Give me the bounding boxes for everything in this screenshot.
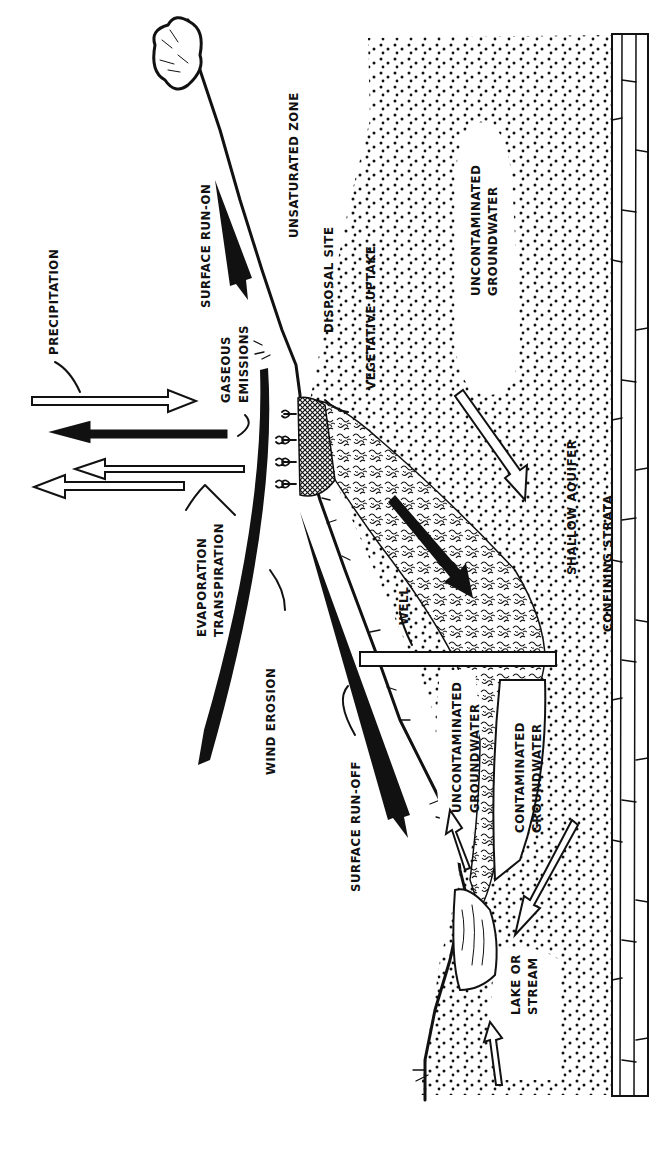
wind-erosion-pointer [270, 570, 285, 610]
well [360, 652, 556, 666]
label-confining-strata: CONFINING STRATA [600, 495, 615, 632]
surface-run-on-arrow [215, 180, 252, 300]
transpiration-arrow [34, 475, 184, 498]
label-uncontaminated-groundwater-lower-1: UNCONTAMINATED [449, 681, 464, 813]
precipitation-arrow [32, 362, 196, 412]
gaseous-emissions-arrow [58, 424, 225, 440]
confining-strata [612, 34, 648, 1096]
label-evaporation: EVAPORATION [194, 538, 209, 637]
label-shallow-aquifer: SHALLOW AQUIFER [564, 440, 579, 575]
label-well: WELL [396, 587, 411, 625]
label-contaminated-2: GROUNDWATER [529, 724, 544, 833]
label-surface-run-on: SURFACE RUN-ON [198, 184, 213, 308]
plants-icon [276, 410, 296, 487]
label-disposal-site: DISPOSAL SITE [321, 226, 336, 333]
tree-icon [154, 18, 202, 89]
evapotranspiration-bracket [186, 485, 235, 515]
label-transpiration: TRANSPIRATION [211, 523, 226, 637]
label-precipitation: PRECIPITATION [46, 249, 61, 355]
label-unsaturated-zone: UNSATURATED ZONE [286, 92, 301, 238]
label-uncontaminated-groundwater-upper-2: GROUNDWATER [485, 187, 500, 296]
label-emissions: EMISSIONS [236, 325, 251, 403]
gaseous-emissions-pointer [238, 415, 249, 436]
label-contaminated-1: CONTAMINATED [512, 722, 527, 833]
evaporation-arrow [75, 459, 244, 479]
label-uncontaminated-groundwater-upper-1: UNCONTAMINATED [468, 164, 483, 296]
label-vegetative-uptake: VEGETATIVE UPTAKE [363, 246, 378, 390]
label-gaseous: GASEOUS [218, 336, 233, 403]
contaminant-migration-diagram: PRECIPITATION SURFACE RUN-ON UNSATURATED… [0, 0, 660, 1152]
label-uncontaminated-groundwater-lower-2: GROUNDWATER [467, 704, 482, 813]
label-stream: STREAM [525, 957, 540, 1015]
label-surface-run-off: SURFACE RUN-OFF [348, 761, 363, 892]
label-wind-erosion: WIND EROSION [263, 668, 278, 775]
label-lake-or: LAKE OR [508, 954, 523, 1015]
